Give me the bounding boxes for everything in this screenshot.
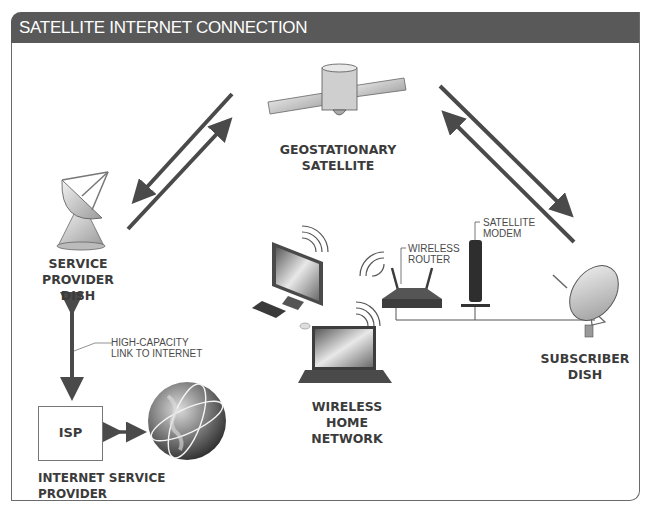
service-provider-dish-icon <box>57 172 108 250</box>
wireless-router-callout: WIRELESS ROUTER <box>408 243 460 265</box>
service-provider-dish-label: SERVICE PROVIDER DISH <box>28 256 128 304</box>
laptop-icon <box>298 302 392 383</box>
high-capacity-callout: HIGH-CAPACITY LINK TO INTERNET <box>111 337 202 359</box>
modem-callout-leader <box>475 222 480 240</box>
satellite-modem-callout: SATELLITE MODEM <box>483 217 535 239</box>
satellite-icon <box>268 64 406 115</box>
router-dish-cable <box>396 308 595 320</box>
subscriber-dish-icon <box>553 256 628 337</box>
wifi-signal-icon <box>356 302 380 326</box>
satellite-modem-icon <box>461 240 490 307</box>
isp-caption: INTERNET SERVICE PROVIDER <box>38 470 238 502</box>
satellite-label: GEOSTATIONARY SATELLITE <box>278 142 398 174</box>
wifi-signal-icon <box>302 226 328 252</box>
subscriber-dish-label: SUBSCRIBER DISH <box>535 351 635 383</box>
home-network-label: WIRELESS HOME NETWORK <box>292 399 402 447</box>
wifi-signal-icon <box>360 252 384 276</box>
uplink-arrows-left <box>128 94 232 229</box>
globe-icon <box>147 380 228 463</box>
isp-box-label: ISP <box>39 425 102 440</box>
callout-leader <box>74 343 112 351</box>
isp-box: ISP <box>38 406 103 461</box>
router-callout-leader <box>401 248 406 284</box>
desktop-computer-icon <box>252 226 328 329</box>
